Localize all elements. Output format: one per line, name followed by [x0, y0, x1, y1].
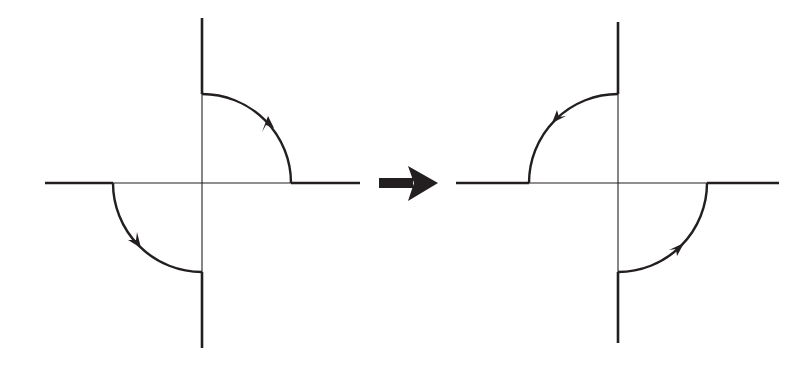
diagram-canvas: [0, 0, 810, 368]
left-upper-right-arc: [202, 94, 291, 183]
right-upper-left-arc: [529, 94, 618, 183]
right-figure: [456, 22, 779, 343]
right-arrow-icon: [379, 166, 438, 201]
left-lower-left-arc: [113, 183, 202, 272]
right-lower-right-arc: [618, 183, 707, 272]
left-figure: [45, 18, 360, 348]
